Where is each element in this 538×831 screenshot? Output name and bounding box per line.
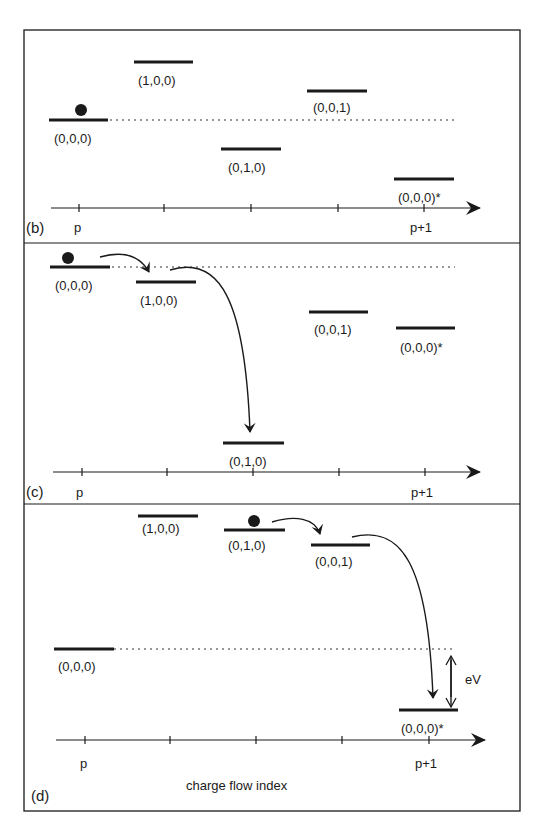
level-label: (1,0,0) [142, 521, 180, 536]
panel-b: (b) p p+1 (0,0,0) (1,0,0) (0,1,0) (0,0,1… [26, 62, 480, 236]
level-label: (0,0,0) [58, 659, 96, 674]
level-label: (1,0,0) [138, 73, 176, 88]
transition-arrow [170, 267, 250, 432]
transition-arrow [100, 254, 149, 272]
level-label: (1,0,0) [140, 293, 178, 308]
axis-start-label: p [80, 756, 87, 771]
panel-c: (c) p p+1 (0,0,0) (1,0,0) (0,1,0) (0,0,1… [26, 252, 480, 500]
level-label: (0,1,0) [229, 454, 267, 469]
panel-label: (c) [26, 483, 44, 500]
level-label: (0,0,1) [314, 322, 352, 337]
axis-end-label: p+1 [411, 485, 433, 500]
axis-end-label: p+1 [415, 756, 437, 771]
level-label: (0,0,0) [55, 278, 93, 293]
panel-d: (d) p p+1 charge flow index (0,0,0) (1,0… [31, 515, 485, 804]
axis-start-label: p [74, 220, 81, 235]
figure-frame [24, 30, 520, 811]
transition-arrow [352, 535, 433, 698]
electron-dot [75, 104, 87, 116]
energy-level-diagram: (b) p p+1 (0,0,0) (1,0,0) (0,1,0) (0,0,1… [0, 0, 538, 831]
panel-label: (b) [26, 219, 44, 236]
level-label: (0,0,1) [313, 100, 351, 115]
level-label: (0,1,0) [228, 160, 266, 175]
axis-title: charge flow index [186, 778, 288, 793]
energy-gap-label: eV [465, 672, 481, 687]
level-label: (0,0,0)* [398, 190, 441, 205]
level-label: (0,0,0)* [401, 721, 444, 736]
electron-dot [62, 252, 74, 264]
transition-arrow [272, 518, 320, 534]
level-label: (0,1,0) [228, 538, 266, 553]
electron-dot [248, 515, 260, 527]
panel-label: (d) [31, 787, 49, 804]
axis-start-label: p [76, 485, 83, 500]
level-label: (0,0,0)* [400, 340, 443, 355]
axis-end-label: p+1 [410, 220, 432, 235]
level-label: (0,0,0) [54, 131, 92, 146]
level-label: (0,0,1) [315, 554, 353, 569]
